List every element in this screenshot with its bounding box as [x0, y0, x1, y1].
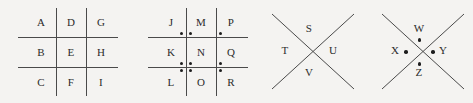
grid-cell: I [86, 67, 116, 97]
cipher-panel-cross-plain: S T U V [258, 0, 368, 103]
grid-cell: C [26, 67, 56, 97]
cell-letter: F [56, 67, 86, 97]
grid-cell-dotted: K [156, 37, 186, 67]
cross-dot-right [431, 50, 435, 54]
grid-cell: E [56, 37, 86, 67]
cell-letter: G [86, 7, 116, 37]
cell-letter: C [26, 67, 56, 97]
cross-letter-left: X [384, 44, 406, 56]
grid-cell-dotted: P [216, 7, 246, 37]
cross-letter-bottom: V [298, 66, 320, 78]
cross-letter-left: T [274, 44, 296, 56]
cross-letter-right: Y [432, 44, 454, 56]
grid-cell-dotted: O [186, 67, 216, 97]
grid-cell-dotted: M [186, 7, 216, 37]
cell-dot [219, 32, 222, 35]
cross-dot-left [404, 50, 408, 54]
cell-letter: I [86, 67, 116, 97]
grid-cell: B [26, 37, 56, 67]
cross-dot-top [418, 38, 422, 42]
grid-cell-dotted: L [156, 67, 186, 97]
cell-dot [189, 62, 192, 65]
cell-letter: A [26, 7, 56, 37]
cell-dot [189, 32, 192, 35]
grid-cell-dotted: J [156, 7, 186, 37]
cipher-panel-grid-dotted: J M P K N Q L O [138, 0, 258, 103]
cross-letter-top: S [298, 22, 320, 34]
grid-cell: D [56, 7, 86, 37]
cross-dot-bottom [418, 62, 422, 66]
grid-cell-dotted: R [216, 67, 246, 97]
cross-letter-right: U [322, 44, 344, 56]
cell-dot [219, 69, 222, 72]
grid-cell: F [56, 67, 86, 97]
grid-cell: G [86, 7, 116, 37]
cipher-panel-grid-plain: A D G B E H C F I [8, 0, 128, 103]
grid-cell: H [86, 37, 116, 67]
grid-cell-dotted: Q [216, 37, 246, 67]
cell-dot [180, 32, 183, 35]
cell-dot [180, 62, 183, 65]
cipher-panel-cross-dotted: W X Y Z [368, 0, 473, 103]
grid-cell-dotted: N [186, 37, 216, 67]
pigpen-cipher-key-figure: A D G B E H C F I [0, 0, 473, 103]
cell-dot [189, 69, 192, 72]
grid-cell: A [26, 7, 56, 37]
cell-letter: H [86, 37, 116, 67]
cell-letter: B [26, 37, 56, 67]
cross-letter-bottom: Z [408, 66, 430, 78]
cell-letter: E [56, 37, 86, 67]
cross-letter-top: W [408, 22, 430, 34]
cell-dot [219, 62, 222, 65]
cell-dot [180, 69, 183, 72]
cell-letter: D [56, 7, 86, 37]
